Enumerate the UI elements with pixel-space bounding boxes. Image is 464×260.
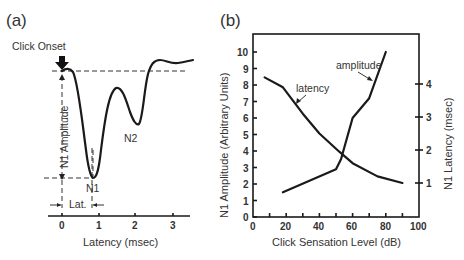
svg-text:6: 6 [243, 113, 249, 124]
panel-b-left-tick-labels: 0 1 2 3 4 5 6 7 8 9 10 [237, 47, 249, 223]
svg-text:9: 9 [243, 64, 249, 75]
lat-arrowhead-left-icon [57, 203, 61, 207]
panel-a-xtick: 0 [59, 220, 65, 231]
svg-text:100: 100 [410, 221, 427, 232]
waveform-curve [62, 60, 193, 178]
svg-text:20: 20 [280, 221, 292, 232]
svg-text:3: 3 [426, 112, 432, 123]
latency-curve [265, 77, 403, 183]
svg-text:1: 1 [426, 178, 432, 189]
panel-b-label: (b) [220, 11, 241, 30]
svg-text:60: 60 [346, 221, 358, 232]
latency-annotation: latency [296, 82, 330, 94]
panel-b-right-tick-labels: 1 2 3 4 [426, 79, 432, 189]
n2-label: N2 [124, 132, 138, 144]
panel-b-left-axis-label: N1 Amplitude (Arbitrary Units) [218, 73, 230, 219]
latency-pointer-arrowhead-icon [296, 98, 301, 104]
click-onset-label: Click Onset [12, 40, 66, 52]
panel-b-right-axis-label: N1 Latency (msec) [442, 98, 454, 190]
svg-text:4: 4 [243, 146, 249, 157]
amplitude-arrow-down-icon [59, 174, 65, 180]
amplitude-annotation: amplitude [336, 59, 382, 71]
figure: (a) Click Onset N1 Amplitude N2 N1 Lat. [0, 0, 464, 260]
svg-text:7: 7 [243, 97, 249, 108]
panel-b-x-axis-label: Click Sensation Level (dB) [272, 236, 401, 248]
panel-b: (b) 0 1 2 3 4 5 6 7 8 9 1 [218, 11, 454, 248]
panel-a-xtick: 3 [170, 220, 176, 231]
svg-text:80: 80 [380, 221, 392, 232]
n1-amplitude-label: N1 Amplitude [58, 105, 70, 168]
panel-a-x-axis-label: Latency (msec) [83, 236, 158, 248]
svg-text:0: 0 [243, 212, 249, 223]
panel-a-xtick: 1 [96, 220, 102, 231]
panel-a: (a) Click Onset N1 Amplitude N2 N1 Lat. [6, 11, 193, 248]
svg-text:0: 0 [250, 221, 256, 232]
amplitude-curve [283, 52, 386, 192]
n1-label: N1 [86, 182, 100, 194]
svg-text:3: 3 [243, 163, 249, 174]
panel-a-label: (a) [6, 11, 27, 30]
svg-text:5: 5 [243, 130, 249, 141]
panel-b-x-tick-labels: 0 20 40 60 80 100 [250, 221, 427, 232]
amplitude-arrow-up-icon [59, 74, 65, 80]
panel-a-xtick: 2 [132, 220, 138, 231]
lat-arrowhead-right-icon [93, 203, 97, 207]
lat-label: Lat. [69, 198, 87, 210]
svg-text:4: 4 [426, 79, 432, 90]
svg-text:1: 1 [243, 196, 249, 207]
svg-text:2: 2 [426, 145, 432, 156]
svg-text:2: 2 [243, 179, 249, 190]
svg-text:8: 8 [243, 80, 249, 91]
svg-text:10: 10 [237, 47, 249, 58]
svg-text:40: 40 [313, 221, 325, 232]
amplitude-pointer-arrowhead-icon [367, 76, 373, 81]
